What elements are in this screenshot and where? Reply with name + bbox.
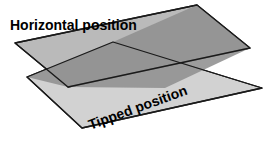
horizontal-position-label: Horizontal position xyxy=(10,18,137,33)
diagram-canvas: Horizontal position Tipped position xyxy=(0,0,274,148)
